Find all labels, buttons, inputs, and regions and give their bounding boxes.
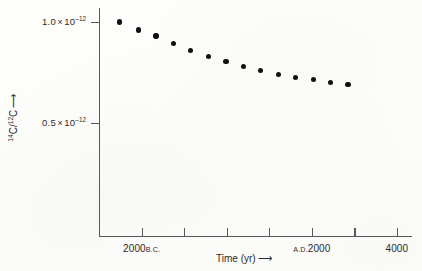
era-marker: A.D. (293, 245, 307, 254)
y-axis-denominator-superscript: 12 (7, 117, 14, 124)
x-axis-line (99, 236, 412, 237)
x-tick-label: 4000 (386, 243, 409, 254)
y-axis-numerator-base: C (8, 127, 19, 134)
x-tick-label: A.D.2000 (293, 243, 330, 254)
year-number: 2000 (308, 243, 331, 254)
y-axis-title: 14C/12C⟶ (7, 80, 19, 156)
data-point (328, 80, 333, 85)
y-tick-label: 1.0×10‒12 (18, 15, 86, 27)
y-tick-mantissa: 0.5 (42, 117, 56, 128)
x-tick-mark (397, 228, 398, 236)
y-axis-numerator-superscript: 14 (7, 134, 14, 141)
paper-texture (0, 0, 422, 271)
year-number: 4000 (386, 243, 409, 254)
x-tick-mark (269, 228, 270, 236)
data-point (276, 72, 281, 77)
data-point (241, 64, 246, 69)
x-axis-title: Time (yr)⟶ (216, 253, 271, 264)
x-axis-title-text: Time (yr) (216, 253, 256, 264)
data-point (223, 59, 228, 64)
data-point (117, 19, 122, 24)
carbon-14-decay-chart: 1.0×10‒120.5×10‒12 2000B.C.A.D.20004000 … (0, 0, 422, 271)
era-marker: B.C. (146, 245, 160, 254)
x-tick-mark (99, 228, 100, 236)
data-series-points (0, 0, 422, 271)
y-axis-line (99, 8, 100, 237)
x-axis-arrow-icon: ⟶ (256, 253, 271, 264)
x-tick-mark (354, 228, 355, 236)
y-tick-label: 0.5×10‒12 (18, 116, 86, 128)
y-tick-mark (91, 22, 99, 23)
data-point (206, 54, 211, 59)
x-tick-mark (227, 228, 228, 236)
data-point (153, 33, 158, 38)
data-point (188, 48, 193, 53)
data-point (311, 77, 316, 82)
y-tick-base: 10 (64, 16, 75, 27)
y-axis-denominator-base: C (8, 110, 19, 117)
data-point (345, 82, 350, 87)
x-tick-mark (142, 228, 143, 236)
x-tick-mark (184, 228, 185, 236)
y-tick-mark (91, 123, 99, 124)
y-tick-base: 10 (64, 117, 75, 128)
x-tick-label: 2000B.C. (123, 243, 160, 254)
y-axis-arrow-icon: ⟶ (8, 95, 19, 110)
data-point (136, 27, 141, 32)
y-tick-exponent: ‒12 (75, 15, 86, 22)
y-axis-ratio-separator: / (8, 124, 19, 127)
y-tick-mantissa: 1.0 (42, 16, 56, 27)
x-tick-mark (312, 228, 313, 236)
data-point (258, 68, 263, 73)
data-point (293, 75, 298, 80)
y-tick-exponent: ‒12 (75, 116, 86, 123)
data-point (171, 41, 176, 46)
year-number: 2000 (123, 243, 146, 254)
